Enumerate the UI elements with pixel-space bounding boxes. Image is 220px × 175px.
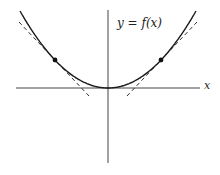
function-label: y = f(x) (117, 16, 162, 30)
function-tangent-diagram (0, 0, 220, 175)
right-tangent-point (159, 58, 164, 63)
x-axis-label: x (204, 79, 210, 92)
left-tangent-point (53, 58, 58, 63)
